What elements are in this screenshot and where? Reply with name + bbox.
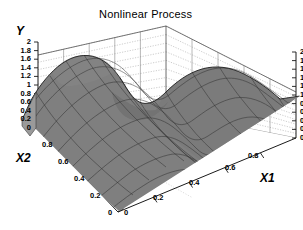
y-tick-left-0.6: 0.6 (8, 98, 31, 106)
x2-axis-label: X2 (16, 152, 31, 164)
y-tick-right-0.2: 0.2 (300, 125, 303, 133)
y-tick-right-1.8: 1.8 (300, 57, 303, 65)
y-tick-left-1.2: 1.2 (8, 72, 31, 80)
y-tick-right-0: 0 (300, 134, 303, 142)
y-tick-right-1.2: 1.2 (300, 82, 303, 90)
x1-tick-0: 0 (124, 209, 128, 217)
x2-tick-0.8: 0.8 (42, 141, 52, 149)
surface-plot-canvas (0, 0, 303, 230)
y-tick-right-2: 2 (300, 48, 303, 56)
x1-tick-0.4: 0.4 (189, 179, 199, 187)
y-tick-right-1: 1 (300, 91, 303, 99)
y-tick-left-0: 0 (8, 124, 31, 132)
y-tick-right-0.6: 0.6 (300, 108, 303, 116)
chart-title: Nonlinear Process (99, 9, 192, 20)
y-tick-right-1.6: 1.6 (300, 65, 303, 73)
y-tick-left-1: 1 (8, 81, 31, 89)
y-tick-left-0.8: 0.8 (8, 90, 31, 98)
y-tick-left-1.6: 1.6 (8, 55, 31, 63)
chart-figure: Nonlinear Process Y X2 X1 2 1.8 1.6 1.4 … (0, 0, 303, 230)
y-tick-left-0.2: 0.2 (8, 115, 31, 123)
y-tick-right-0.8: 0.8 (300, 100, 303, 108)
y-tick-right-1.4: 1.4 (300, 74, 303, 82)
x2-tick-0.4: 0.4 (74, 175, 84, 183)
y-axis-label: Y (16, 25, 24, 37)
y-tick-left-2: 2 (8, 38, 31, 46)
x1-axis-label: X1 (260, 172, 275, 184)
x2-tick-0.2: 0.2 (90, 192, 100, 200)
x1-tick-0.8: 0.8 (248, 152, 258, 160)
y-tick-left-1.8: 1.8 (8, 47, 31, 55)
x2-tick-0: 0 (108, 209, 112, 217)
x1-tick-0.2: 0.2 (153, 194, 163, 202)
x1-tick-0.6: 0.6 (225, 164, 235, 172)
y-tick-left-1.4: 1.4 (8, 64, 31, 72)
y-tick-left-0.4: 0.4 (8, 107, 31, 115)
x2-tick-0.6: 0.6 (58, 158, 68, 166)
y-tick-right-0.4: 0.4 (300, 117, 303, 125)
